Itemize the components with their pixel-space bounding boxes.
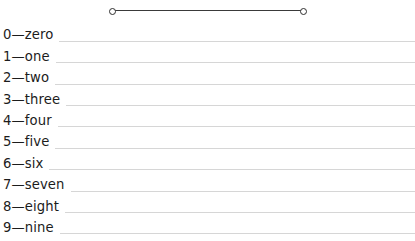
list-item-label: 3—three (0, 92, 66, 107)
list-item[interactable]: 3—three (0, 88, 415, 109)
list-item-rule (59, 41, 415, 42)
list-item-rule (58, 126, 415, 127)
list-item-label: 2—two (0, 70, 55, 85)
list-item[interactable]: 4—four (0, 110, 415, 131)
list-item-rule (49, 169, 415, 170)
list-item-label: 8—eight (0, 199, 65, 214)
list-item[interactable]: 9—nine (0, 217, 415, 238)
numbered-list: 0—zero1—one2—two3—three4—four5—five6—six… (0, 24, 415, 238)
list-item-label: 5—five (0, 134, 55, 149)
list-item[interactable]: 8—eight (0, 195, 415, 216)
list-item-rule (56, 62, 415, 63)
list-item-rule (55, 84, 415, 85)
list-item-label: 4—four (0, 113, 58, 128)
list-item-rule (55, 148, 415, 149)
list-item-rule (65, 212, 415, 213)
connector-line (112, 10, 303, 11)
list-item-label: 7—seven (0, 177, 71, 192)
list-item-rule (66, 105, 415, 106)
list-item[interactable]: 5—five (0, 131, 415, 152)
list-item[interactable]: 1—one (0, 45, 415, 66)
list-item-label: 6—six (0, 156, 49, 171)
list-item-rule (71, 191, 415, 192)
list-item[interactable]: 2—two (0, 67, 415, 88)
list-item-rule (60, 233, 415, 234)
list-item-label: 9—nine (0, 220, 60, 235)
connector-left-node[interactable] (109, 8, 116, 15)
list-item[interactable]: 7—seven (0, 174, 415, 195)
list-item[interactable]: 6—six (0, 152, 415, 173)
horizontal-connector[interactable] (0, 0, 415, 24)
list-item-label: 0—zero (0, 27, 59, 42)
page-root: 0—zero1—one2—two3—three4—four5—five6—six… (0, 0, 415, 241)
list-item[interactable]: 0—zero (0, 24, 415, 45)
list-item-label: 1—one (0, 49, 56, 64)
connector-right-node[interactable] (300, 8, 307, 15)
